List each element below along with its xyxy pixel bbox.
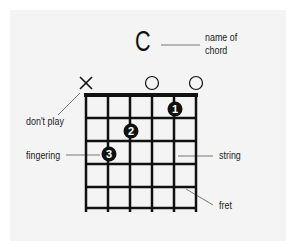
label-fret: fret [219,200,232,211]
label-string: string [219,150,241,161]
open-string-circle-icon [190,77,203,90]
mute-x-icon [80,77,92,89]
dont-play-leader-line [58,93,80,115]
frets [85,118,197,208]
finger-number-2: 2 [127,124,135,138]
label-name-of-chord-line1: name of [205,32,237,43]
label-dont-play: don't play [26,116,64,127]
label-fingering: fingering [26,150,60,161]
chord-name: C [135,26,151,56]
nut [84,93,198,97]
finger-number-1: 1 [171,102,179,116]
finger-number-3: 3 [105,147,113,161]
open-string-circle-icon [146,77,159,90]
fret-leader-line [186,189,213,205]
label-name-of-chord-line2: chord [205,45,227,56]
